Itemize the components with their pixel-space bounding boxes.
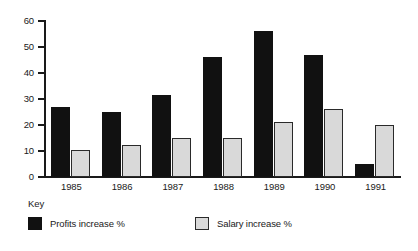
- key-entry-profits: Profits increase %: [28, 216, 125, 230]
- bar-chart: 0102030405060 19851986198719881989199019…: [0, 0, 418, 251]
- bar-profits-1989: [254, 31, 273, 177]
- black-square-icon: [28, 217, 42, 230]
- x-axis-label-1989: 1989: [249, 181, 300, 192]
- x-axis-label-1985: 1985: [46, 181, 97, 192]
- bar-salary-1988: [223, 138, 242, 177]
- x-axis-label-1986: 1986: [97, 181, 148, 192]
- bar-profits-1986: [102, 112, 121, 177]
- bar-profits-1985: [51, 107, 70, 177]
- bar-profits-1991: [355, 164, 374, 177]
- chart-key: Key Profits increase % Salary increase %: [28, 198, 398, 248]
- gray-square-icon: [195, 217, 209, 230]
- key-label-salary: Salary increase %: [217, 218, 292, 229]
- key-title: Key: [28, 198, 44, 209]
- key-entry-salary: Salary increase %: [195, 216, 292, 230]
- x-axis-label-1988: 1988: [198, 181, 249, 192]
- x-axis-label-1990: 1990: [300, 181, 351, 192]
- bar-profits-1987: [152, 95, 171, 177]
- key-label-profits: Profits increase %: [50, 218, 125, 229]
- bar-salary-1986: [122, 145, 141, 178]
- plot-area: 0102030405060 19851986198719881989199019…: [0, 0, 418, 196]
- bar-profits-1990: [304, 55, 323, 177]
- bar-salary-1987: [172, 138, 191, 177]
- bar-salary-1990: [324, 109, 343, 177]
- bars-layer: [0, 0, 418, 196]
- bar-salary-1991: [375, 125, 394, 177]
- x-axis-label-1987: 1987: [147, 181, 198, 192]
- bar-profits-1988: [203, 57, 222, 177]
- bar-salary-1989: [274, 122, 293, 177]
- bar-salary-1985: [71, 150, 90, 177]
- x-axis-label-1991: 1991: [350, 181, 401, 192]
